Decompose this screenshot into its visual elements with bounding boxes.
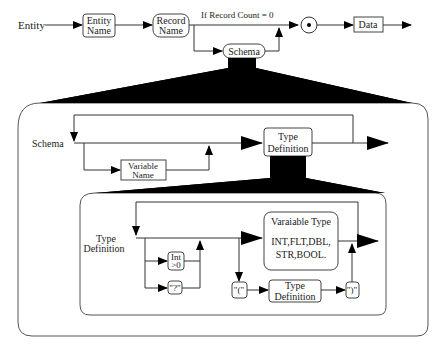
svg-text:Definition: Definition [83,243,124,254]
question-mark-box: "?" [168,281,182,294]
record-name-box: Record Name [153,14,189,37]
type-definition-box: Type Definition [264,128,312,156]
svg-text:Definition: Definition [274,291,315,302]
svg-text:"?": "?" [169,283,181,293]
syntax-diagram: Entity Entity Name Record Name If Record… [0,0,443,352]
svg-text:")": ")" [347,285,358,295]
svg-text:STR,BOOL.: STR,BOOL. [276,249,327,260]
svg-text:Type: Type [278,131,298,142]
data-box: Data [354,17,383,32]
entity-label: Entity [18,19,45,31]
svg-text:>0: >0 [171,260,181,270]
entity-name-box: Entity Name [83,14,115,37]
dot-circle-icon [301,17,317,33]
svg-text:"(": "(" [234,285,245,295]
variable-name-box: Variable Name [121,160,166,180]
condition-label: If Record Count = 0 [201,10,274,20]
arrow [194,25,222,51]
svg-text:Varaiable Type: Varaiable Type [271,216,331,227]
top-row: Entity Entity Name Record Name If Record… [18,10,411,58]
schema-entry-label: Schema [32,138,64,149]
svg-text:Data: Data [359,19,378,30]
svg-text:Name: Name [87,25,111,36]
svg-text:INT,FLT,DBL,: INT,FLT,DBL, [271,236,331,247]
svg-text:Type: Type [285,280,305,291]
open-paren-box: "(" [232,282,247,298]
int-gt-zero-box: Int >0 [168,252,184,270]
svg-text:Name: Name [159,25,183,36]
schema-box: Schema [223,44,265,58]
arrow [265,28,279,51]
svg-text:Name: Name [132,170,154,180]
close-paren-box: ")" [346,282,359,298]
svg-text:Definition: Definition [267,143,308,154]
svg-text:Schema: Schema [228,46,260,57]
nested-type-definition-box: Type Definition [269,280,321,302]
variable-type-box: Varaiable Type INT,FLT,DBL, STR,BOOL. [264,212,338,270]
